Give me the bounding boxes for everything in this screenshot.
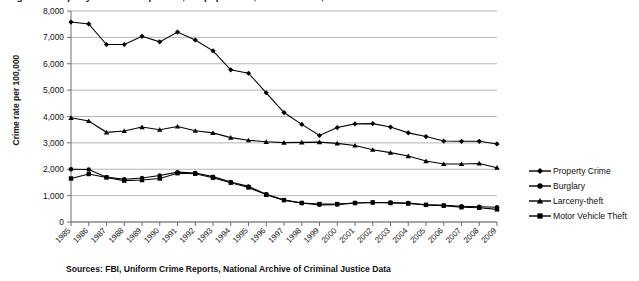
legend-item[interactable]: Larceny-theft bbox=[528, 193, 639, 208]
x-tick-label: 1999 bbox=[302, 226, 321, 245]
square-marker bbox=[424, 203, 428, 207]
x-tick-label: 1993 bbox=[195, 226, 214, 245]
x-tick-label: 2002 bbox=[355, 226, 374, 245]
triangle-marker bbox=[175, 124, 180, 129]
data-series-group bbox=[68, 19, 499, 211]
x-tick-label: 2001 bbox=[337, 226, 356, 245]
y-tick-label: 1,000 bbox=[43, 191, 64, 201]
x-tick-label: 1992 bbox=[178, 226, 197, 245]
diamond-marker bbox=[139, 34, 144, 39]
square-marker bbox=[495, 207, 499, 211]
y-tick-label: 2,000 bbox=[43, 164, 64, 174]
legend-item[interactable]: Property Crime bbox=[528, 163, 639, 178]
y-tick-label: 3,000 bbox=[43, 138, 64, 148]
square-marker bbox=[264, 193, 268, 197]
x-tick-label: 2005 bbox=[408, 226, 427, 245]
square-marker bbox=[442, 203, 446, 207]
y-tick-label: 4,000 bbox=[43, 112, 64, 122]
square-marker bbox=[158, 176, 162, 180]
x-tick-label: 1989 bbox=[124, 226, 143, 245]
y-tick-label: 0 bbox=[59, 217, 64, 227]
diamond-marker bbox=[335, 125, 340, 130]
square-marker bbox=[537, 213, 542, 218]
legend-label: Larceny-theft bbox=[552, 196, 603, 206]
x-tick-label: 1996 bbox=[249, 226, 268, 245]
diamond-marker bbox=[423, 134, 428, 139]
x-tick-label: 2004 bbox=[391, 226, 410, 245]
triangle-marker bbox=[68, 115, 73, 120]
legend-label: Motor Vehicle Theft bbox=[552, 211, 627, 221]
source-caption: Sources: FBI, Uniform Crime Reports, Nat… bbox=[66, 264, 391, 274]
diamond-marker bbox=[122, 42, 127, 47]
diamond-marker bbox=[175, 30, 180, 35]
x-tick-label: 1995 bbox=[231, 226, 250, 245]
legend-marker-diamond-marker bbox=[528, 165, 552, 177]
y-tick-label: 5,000 bbox=[43, 85, 64, 95]
legend-marker-square-marker bbox=[528, 210, 552, 222]
square-marker bbox=[211, 175, 215, 179]
x-tick-label: 2009 bbox=[479, 226, 498, 245]
circle-marker bbox=[537, 183, 542, 188]
y-tick-label: 8,000 bbox=[43, 6, 64, 16]
x-tick-label: 1988 bbox=[107, 226, 126, 245]
square-marker bbox=[353, 201, 357, 205]
x-tick-label: 1985 bbox=[53, 226, 72, 245]
series-motor-vehicle-theft bbox=[69, 171, 499, 212]
square-marker bbox=[477, 206, 481, 210]
square-marker bbox=[175, 171, 179, 175]
x-tick-label: 2006 bbox=[426, 226, 445, 245]
square-marker bbox=[282, 198, 286, 202]
x-tick-label: 1997 bbox=[266, 226, 285, 245]
square-marker bbox=[87, 172, 91, 176]
x-tick-label: 2000 bbox=[320, 226, 339, 245]
series-property-crime bbox=[68, 19, 499, 146]
square-marker bbox=[388, 201, 392, 205]
square-marker bbox=[459, 205, 463, 209]
square-marker bbox=[104, 175, 108, 179]
x-tick-label: 1994 bbox=[213, 226, 232, 245]
legend-marker-circle-marker bbox=[528, 180, 552, 192]
diamond-marker bbox=[317, 133, 322, 138]
diamond-marker bbox=[494, 141, 499, 146]
square-marker bbox=[371, 200, 375, 204]
legend-label: Property Crime bbox=[552, 166, 611, 176]
legend-item[interactable]: Burglary bbox=[528, 178, 639, 193]
square-marker bbox=[69, 176, 73, 180]
y-tick-label: 6,000 bbox=[43, 59, 64, 69]
square-marker bbox=[246, 185, 250, 189]
x-axis-tick-labels: 1985198619871988198919901991199219931994… bbox=[53, 222, 498, 245]
plot-area: 8,0007,0006,0005,0004,0003,0002,0001,000… bbox=[0, 0, 639, 281]
diamond-marker bbox=[193, 37, 198, 42]
square-marker bbox=[335, 202, 339, 206]
x-tick-label: 1998 bbox=[284, 226, 303, 245]
legend-item[interactable]: Motor Vehicle Theft bbox=[528, 208, 639, 223]
square-marker bbox=[229, 180, 233, 184]
circle-marker bbox=[87, 167, 91, 171]
circle-marker bbox=[69, 167, 73, 171]
chart-legend: Property CrimeBurglaryLarceny-theftMotor… bbox=[528, 163, 639, 223]
x-tick-label: 1991 bbox=[160, 226, 179, 245]
diamond-marker bbox=[68, 19, 73, 24]
square-marker bbox=[193, 172, 197, 176]
square-marker bbox=[122, 178, 126, 182]
diamond-marker bbox=[370, 121, 375, 126]
x-tick-label: 2008 bbox=[462, 226, 481, 245]
gridlines-group bbox=[71, 11, 497, 222]
legend-marker-triangle-marker bbox=[528, 195, 552, 207]
series-burglary bbox=[69, 167, 499, 209]
x-tick-label: 2007 bbox=[444, 226, 463, 245]
square-marker bbox=[317, 202, 321, 206]
diamond-marker bbox=[157, 39, 162, 44]
property-crime-rate-line-chart: Figure 1. Property crime rates per 100,0… bbox=[0, 0, 639, 281]
diamond-marker bbox=[537, 167, 543, 173]
legend-label: Burglary bbox=[552, 181, 585, 191]
x-tick-label: 1986 bbox=[71, 226, 90, 245]
square-marker bbox=[300, 201, 304, 205]
square-marker bbox=[406, 201, 410, 205]
y-axis-tick-labels: 8,0007,0006,0005,0004,0003,0002,0001,000… bbox=[43, 6, 71, 227]
series-line bbox=[71, 22, 497, 144]
y-tick-label: 7,000 bbox=[43, 32, 64, 42]
x-tick-label: 2003 bbox=[373, 226, 392, 245]
diamond-marker bbox=[352, 121, 357, 126]
diamond-marker bbox=[406, 130, 411, 135]
